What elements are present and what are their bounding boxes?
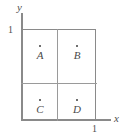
y-axis-tick-1: 1 <box>8 25 13 35</box>
point-marker-icon <box>76 99 78 101</box>
quadrant-region-a: A <box>22 31 58 75</box>
point-label-b: B <box>74 50 81 61</box>
quadrant-region-c: C <box>22 85 58 129</box>
x-axis-label: x <box>114 113 119 124</box>
point-label-a: A <box>37 50 44 61</box>
figure-canvas: y x 1 1 A B C D <box>0 0 127 136</box>
point-label-c: C <box>36 104 43 115</box>
point-marker-icon <box>39 99 41 101</box>
quadrant-region-d: D <box>59 85 95 129</box>
point-label-d: D <box>73 104 81 115</box>
quadrant-region-b: B <box>59 31 95 75</box>
y-axis-label: y <box>17 2 22 13</box>
point-marker-icon <box>76 45 78 47</box>
point-marker-icon <box>39 45 41 47</box>
